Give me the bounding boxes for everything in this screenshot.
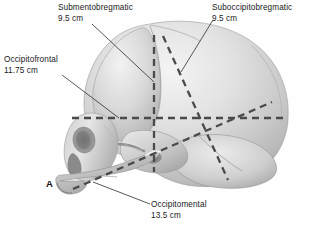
label-occipitomental: Occipitomental 13.5 cm bbox=[151, 200, 207, 221]
skull-illustration bbox=[0, 0, 319, 233]
occipitomental-name: Occipitomental bbox=[151, 200, 207, 209]
submentobregmatic-name: Submentobregmatic bbox=[58, 3, 133, 12]
submentobregmatic-measurement: 9.5 cm bbox=[58, 14, 133, 25]
occipitomental-measurement: 13.5 cm bbox=[151, 211, 207, 222]
label-submentobregmatic: Submentobregmatic 9.5 cm bbox=[58, 3, 133, 24]
suboccipitobregmatic-name: Suboccipitobregmatic bbox=[212, 3, 292, 12]
suboccipitobregmatic-measurement: 9.5 cm bbox=[212, 14, 292, 25]
label-occipitofrontal: Occipitofrontal 11.75 cm bbox=[4, 55, 58, 76]
occipitofrontal-name: Occipitofrontal bbox=[4, 55, 58, 64]
leader-occipitomental bbox=[93, 182, 150, 204]
fetal-skull-diameters-figure: Submentobregmatic 9.5 cm Suboccipitobreg… bbox=[0, 0, 319, 233]
panel-letter: A bbox=[46, 178, 53, 189]
occipitofrontal-measurement: 11.75 cm bbox=[4, 66, 58, 77]
skull-drawing bbox=[56, 21, 288, 194]
label-suboccipitobregmatic: Suboccipitobregmatic 9.5 cm bbox=[212, 3, 292, 24]
